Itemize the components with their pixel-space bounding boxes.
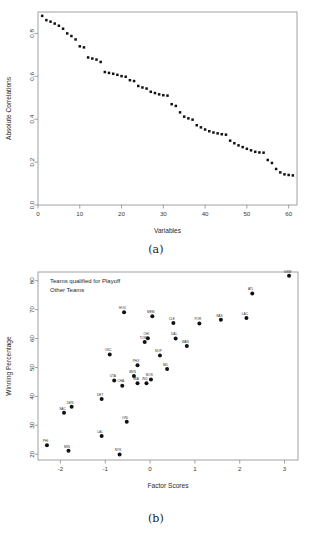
data-point-a	[74, 38, 77, 41]
data-point-b	[100, 434, 104, 438]
data-point-a	[175, 105, 178, 108]
x-tick-label-b: 1	[193, 465, 197, 472]
data-point-b	[118, 453, 122, 457]
data-point-a	[53, 22, 56, 25]
data-point-a	[70, 35, 73, 38]
data-point-a	[287, 174, 290, 177]
data-point-a	[116, 74, 119, 77]
y-tick-label-b: 70	[28, 306, 35, 313]
x-tick-label-a: 30	[160, 210, 167, 217]
data-point-a	[58, 24, 61, 27]
legend-entry-2: Other Teams	[50, 287, 84, 293]
data-point-a	[187, 117, 190, 120]
data-point-label-mem: MEM	[147, 310, 155, 314]
data-point-label-lac: LAC	[242, 312, 249, 316]
data-point-annotation-a: ....	[78, 36, 81, 38]
data-point-b	[158, 354, 162, 358]
data-point-a	[241, 146, 244, 149]
legend-b: Teams qualified for PlayoffOther Teams	[50, 278, 121, 293]
data-point-label-sac: SAC	[59, 407, 66, 411]
data-point-a	[204, 128, 207, 131]
data-point-b	[100, 397, 104, 401]
data-point-a	[129, 79, 132, 82]
data-point-b	[219, 318, 223, 322]
data-point-a	[108, 72, 111, 75]
data-point-a	[45, 19, 48, 22]
x-tick-label-a: 0	[36, 210, 40, 217]
data-point-label-det: DET	[97, 393, 103, 397]
data-point-b	[185, 344, 189, 348]
data-point-label-okc: OKC	[105, 348, 113, 352]
data-point-a	[91, 57, 94, 60]
data-point-a	[87, 56, 90, 59]
data-point-b	[112, 378, 116, 382]
data-point-label-den: DEN	[67, 401, 74, 405]
plot-frame-a	[38, 12, 297, 205]
data-point-b	[136, 381, 140, 385]
data-point-b	[250, 291, 254, 295]
data-point-a	[229, 139, 232, 142]
y-tick-label-b: 80	[28, 277, 35, 284]
data-point-a	[262, 151, 265, 154]
y-axis-title-a: Absolute Correlations	[5, 76, 12, 140]
data-point-b	[136, 363, 140, 367]
data-point-label-lal: LAL	[97, 430, 103, 434]
data-point-a	[279, 171, 282, 174]
data-point-a	[195, 124, 198, 127]
y-axis-title-b: Winning Percentage	[5, 336, 13, 396]
data-point-a	[79, 45, 82, 48]
data-point-a	[233, 142, 236, 145]
data-point-b	[143, 340, 147, 344]
data-point-label-tor: TOR	[140, 336, 147, 340]
data-point-b	[244, 316, 248, 320]
data-point-a	[225, 133, 228, 136]
data-point-a	[124, 76, 127, 79]
data-point-a	[216, 132, 219, 135]
data-point-a	[95, 58, 98, 61]
data-point-label-mia: MIA	[133, 377, 140, 381]
data-point-a	[283, 173, 286, 176]
data-point-label-atl: ATL	[248, 287, 254, 291]
data-point-annotation-a: .. . ...	[61, 22, 66, 24]
data-point-b	[70, 405, 74, 409]
data-point-label-mil: MIL	[163, 363, 169, 367]
data-point-label-phx: PHX	[133, 359, 140, 363]
data-point-label-hou: HOU	[119, 306, 127, 310]
data-point-a	[208, 130, 211, 133]
data-point-label-bkn: BKN	[129, 370, 136, 374]
data-point-b	[62, 411, 66, 415]
chart-panel-b: 20304050607080-2-10123Factor ScoresWinni…	[0, 260, 312, 536]
data-point-a	[237, 144, 240, 147]
data-point-b	[120, 384, 124, 388]
y-tick-label-b: 20	[28, 450, 35, 457]
data-point-b	[171, 321, 175, 325]
data-point-a	[145, 87, 148, 90]
data-point-label-orl: ORL	[122, 416, 129, 420]
data-point-b	[174, 337, 178, 341]
data-point-annotation-a: ....	[53, 18, 56, 20]
data-point-b	[150, 314, 154, 318]
data-point-annotation-a: ........	[45, 12, 50, 14]
y-tick-label-a: 0.8	[28, 29, 35, 38]
x-tick-label-a: 10	[76, 210, 83, 217]
data-point-b	[125, 420, 129, 424]
data-point-a	[250, 149, 253, 152]
y-tick-label-a: 0.6	[28, 71, 35, 80]
data-point-b	[144, 381, 148, 385]
data-point-label-was: WAS	[182, 340, 189, 344]
data-point-a	[66, 32, 69, 35]
data-point-label-sas: SAS	[216, 314, 222, 318]
data-point-a	[104, 71, 107, 74]
data-point-label-nop: NOP	[155, 349, 162, 353]
data-point-a	[120, 75, 123, 78]
data-point-a	[112, 73, 115, 76]
x-tick-label-b: -2	[58, 465, 64, 472]
data-point-b	[45, 443, 49, 447]
y-tick-label-a: 0.4	[28, 114, 35, 123]
scatter-plot-a: 0.00.20.40.60.80102030405060VariablesAbs…	[0, 0, 312, 240]
x-tick-label-a: 60	[285, 210, 292, 217]
y-tick-label-a: 0.0	[28, 200, 35, 209]
caption-a: (a)	[0, 243, 312, 256]
annotation-labels-a: .................... . ..... ......... .…	[45, 12, 95, 56]
data-point-a	[292, 174, 295, 177]
